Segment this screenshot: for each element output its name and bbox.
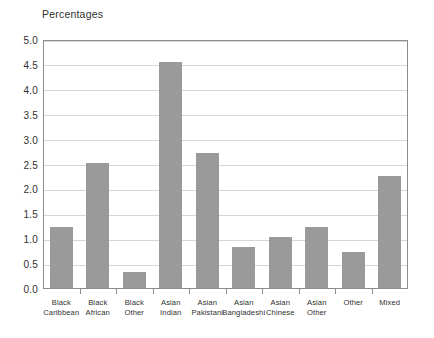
x-tick-label-line: Asian xyxy=(222,298,265,308)
bar xyxy=(159,62,182,288)
bar xyxy=(378,176,401,288)
x-tick-label-line: Indian xyxy=(160,308,181,318)
x-tick-label-line: Asian xyxy=(307,298,327,308)
x-tick-label: BlackOther xyxy=(125,298,145,318)
x-tick xyxy=(189,289,190,294)
x-tick-label: AsianOther xyxy=(307,298,327,318)
bar xyxy=(342,252,365,288)
x-tick-label-line: Other xyxy=(125,308,145,318)
x-tick xyxy=(80,289,81,294)
x-tick xyxy=(299,289,300,294)
y-tick-label: 1.0 xyxy=(23,234,38,245)
y-tick-label: 4.0 xyxy=(23,84,38,95)
bar xyxy=(86,163,109,288)
x-tick xyxy=(262,289,263,294)
bar xyxy=(232,247,255,288)
x-tick-label: AsianIndian xyxy=(160,298,181,318)
x-tick-label-line: Pakistani xyxy=(191,308,223,318)
x-tick-label: AsianPakistani xyxy=(191,298,223,318)
chart-title: Percentages xyxy=(42,8,103,20)
bar xyxy=(123,272,146,288)
x-tick-label: AsianBangladeshi xyxy=(222,298,265,318)
bars-layer xyxy=(43,40,408,289)
x-tick-label-line: Asian xyxy=(191,298,223,308)
y-tick-label: 4.5 xyxy=(23,59,38,70)
x-tick-label-line: Asian xyxy=(160,298,181,308)
x-tick-label-line: Black xyxy=(86,298,110,308)
x-tick-label-line: Caribbean xyxy=(43,308,79,318)
y-axis: 0.00.51.01.52.02.53.03.54.04.55.0 xyxy=(0,40,38,289)
x-axis: BlackCaribbeanBlackAfricanBlackOtherAsia… xyxy=(43,289,408,338)
x-tick-label: AsianChinese xyxy=(266,298,295,318)
x-tick-label-line: African xyxy=(86,308,110,318)
y-tick-label: 0.5 xyxy=(23,259,38,270)
bar xyxy=(196,153,219,288)
x-tick xyxy=(116,289,117,294)
x-tick-label-line: Mixed xyxy=(379,298,400,308)
y-tick-label: 3.0 xyxy=(23,134,38,145)
x-tick-label-line: Chinese xyxy=(266,308,295,318)
x-tick-label-line: Asian xyxy=(266,298,295,308)
x-tick-label-line: Black xyxy=(43,298,79,308)
y-tick-label: 1.5 xyxy=(23,209,38,220)
x-tick-label-line: Black xyxy=(125,298,145,308)
x-tick-label-line: Other xyxy=(307,308,327,318)
y-tick-label: 3.5 xyxy=(23,109,38,120)
bar xyxy=(50,227,73,288)
y-tick-label: 5.0 xyxy=(23,35,38,46)
x-tick xyxy=(372,289,373,294)
y-tick-label: 2.0 xyxy=(23,184,38,195)
x-tick-label-line: Bangladeshi xyxy=(222,308,265,318)
x-tick xyxy=(226,289,227,294)
x-tick-label: Other xyxy=(344,298,364,308)
bar xyxy=(305,227,328,288)
x-tick xyxy=(153,289,154,294)
x-tick-label: BlackAfrican xyxy=(86,298,110,318)
x-tick-label: BlackCaribbean xyxy=(43,298,79,318)
bar-chart-figure: Percentages 0.00.51.01.52.02.53.03.54.04… xyxy=(0,0,434,338)
x-tick-label-line: Other xyxy=(344,298,364,308)
x-tick xyxy=(335,289,336,294)
y-tick-label: 2.5 xyxy=(23,159,38,170)
x-tick-label: Mixed xyxy=(379,298,400,308)
bar xyxy=(269,237,292,288)
y-tick-label: 0.0 xyxy=(23,284,38,295)
